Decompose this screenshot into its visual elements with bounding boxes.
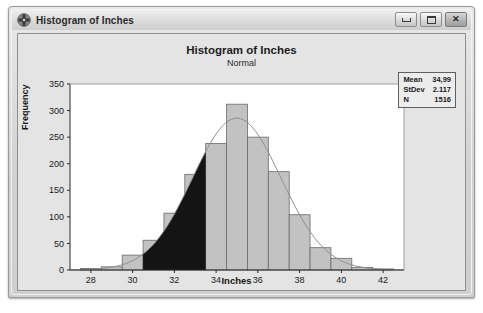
graph-window: Histogram of Inches ✕ Histogram of Inche… <box>8 6 475 298</box>
chart-title: Histogram of Inches <box>18 44 465 56</box>
y-tick-label: 0 <box>59 265 64 275</box>
maximize-button[interactable] <box>420 12 442 27</box>
y-tick-label: 50 <box>54 239 64 249</box>
stat-value-mean: 34,99 <box>432 75 451 85</box>
y-axis-label: Frequency <box>20 84 30 130</box>
stat-row-mean: Mean 34,99 <box>403 75 451 85</box>
y-tick-label: 100 <box>49 212 64 222</box>
close-icon: ✕ <box>452 15 460 24</box>
maximize-icon <box>427 16 436 24</box>
histogram-bar[interactable] <box>289 215 310 270</box>
stat-label-n: N <box>403 95 416 105</box>
y-tick-label: 250 <box>49 132 64 142</box>
stat-label-stdev: StDev <box>403 85 432 95</box>
histogram-graph[interactable]: Histogram of Inches Normal Mean 34,99 St… <box>18 34 465 290</box>
chart-subtitle: Normal <box>18 58 465 68</box>
graph-client-area: Histogram of Inches Normal Mean 34,99 St… <box>17 33 466 291</box>
stat-value-n: 1516 <box>434 95 451 105</box>
window-titlebar[interactable]: Histogram of Inches ✕ <box>12 10 471 30</box>
statistics-box: Mean 34,99 StDev 2.117 N 1516 <box>398 72 456 108</box>
minimize-button[interactable] <box>395 12 417 27</box>
histogram-bar[interactable] <box>247 137 268 270</box>
histogram-bar[interactable] <box>310 248 331 270</box>
y-tick-label: 150 <box>49 185 64 195</box>
stat-label-mean: Mean <box>403 75 430 85</box>
stat-value-stdev: 2.117 <box>433 85 451 95</box>
stat-row-stdev: StDev 2.117 <box>403 85 451 95</box>
histogram-bar[interactable] <box>227 104 248 270</box>
y-tick-label: 300 <box>49 106 64 116</box>
minimize-icon <box>402 18 411 22</box>
minitab-graph-icon <box>17 13 31 27</box>
window-title: Histogram of Inches <box>36 15 134 26</box>
x-axis-label: Inches <box>68 275 405 286</box>
histogram-bar[interactable] <box>206 144 227 270</box>
y-tick-label: 350 <box>49 79 64 89</box>
histogram-bar[interactable] <box>268 172 289 270</box>
desktop-background: Histogram of Inches ✕ Histogram of Inche… <box>0 0 483 313</box>
window-controls: ✕ <box>395 12 467 27</box>
stat-row-n: N 1516 <box>403 95 451 105</box>
close-button[interactable]: ✕ <box>445 12 467 27</box>
histogram-bar[interactable] <box>122 255 143 270</box>
y-tick-label: 200 <box>49 159 64 169</box>
